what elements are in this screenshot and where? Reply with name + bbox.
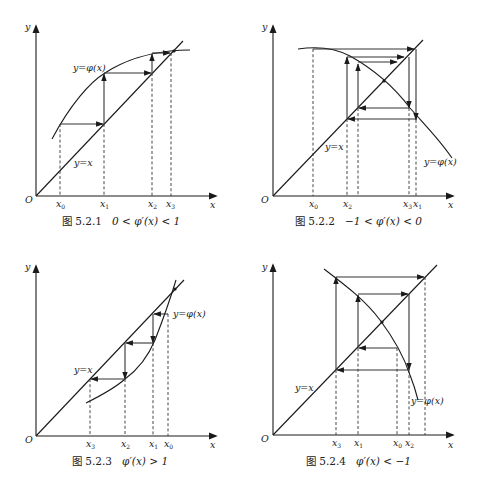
svg-text:x1: x1	[149, 438, 158, 450]
svg-text:x1: x1	[413, 198, 422, 210]
line-label: y=x	[73, 364, 93, 375]
svg-text:x3: x3	[403, 198, 412, 210]
origin-label: O	[261, 194, 269, 205]
line-label: y=x	[294, 382, 314, 393]
line-label: y=x	[324, 141, 344, 152]
svg-text:x0: x0	[393, 437, 402, 449]
curve-phi	[86, 280, 176, 403]
origin-label: O	[25, 194, 33, 205]
curve-phi	[324, 269, 418, 400]
svg-text:x3: x3	[166, 198, 175, 210]
curve-label: y=φ(x)	[423, 156, 457, 167]
x-tick-labels: x0 x2 x3 x1	[309, 198, 422, 210]
svg-text:x3: x3	[332, 437, 341, 449]
figure-5-2-1: y x O y=x y=φ(x) x0 x1 x2 x3 图 5.2.10 < …	[24, 21, 216, 227]
origin-label: O	[25, 434, 33, 445]
y-axis-label: y	[24, 21, 31, 32]
svg-text:x2: x2	[148, 198, 157, 210]
line-y-equals-x	[273, 265, 437, 435]
y-axis-label: y	[261, 261, 268, 272]
curve-phi	[298, 48, 452, 158]
svg-text:x2: x2	[121, 438, 130, 450]
svg-text:x3: x3	[86, 438, 95, 450]
x-axis-label: x	[448, 439, 454, 450]
svg-text:x2: x2	[405, 437, 414, 449]
svg-text:x2: x2	[343, 198, 352, 210]
curve-label: y=φ(x)	[72, 62, 106, 73]
line-y-equals-x	[36, 41, 183, 196]
fixed-point	[382, 79, 385, 82]
figure-caption: 图 5.2.2−1 < φ′(x) < 0	[295, 215, 422, 227]
figure-5-2-4: y x O y=x y=φ(x) x3 x1 x0 x2 图 5.2.4φ′(x…	[261, 261, 454, 467]
x-axis-label: x	[448, 199, 454, 210]
figure-5-2-2: y x O y=x y=φ(x) x0 x2 x3 x1 图 5.2.2−1 <…	[261, 21, 457, 227]
fixed-point-iteration-figures: y x O y=x y=φ(x) x0 x1 x2 x3 图 5.2.10 < …	[0, 0, 479, 488]
fixed-point	[380, 320, 383, 323]
x-tick-labels: x0 x1 x2 x3	[56, 198, 175, 210]
line-y-equals-x	[36, 280, 184, 436]
figure-caption: 图 5.2.4φ′(x) < −1	[306, 455, 411, 467]
curve-label: y=φ(x)	[172, 308, 206, 319]
svg-text:x0: x0	[56, 198, 65, 210]
figure-5-2-3: y x O y=x y=φ(x) x3 x2 x1 x0 图 5.2.3φ′(x…	[24, 261, 216, 467]
svg-text:x1: x1	[354, 437, 363, 449]
y-axis-label: y	[261, 21, 268, 32]
line-y-equals-x	[273, 40, 423, 196]
origin-label: O	[261, 433, 269, 444]
figure-caption: 图 5.2.3φ′(x) > 1	[72, 455, 168, 467]
fixed-point	[173, 287, 176, 290]
svg-text:x1: x1	[100, 198, 109, 210]
y-axis-label: y	[24, 261, 31, 272]
x-tick-labels: x3 x2 x1 x0	[86, 438, 173, 450]
svg-text:x0: x0	[309, 198, 318, 210]
curve-label: y=φ(x)	[410, 395, 444, 406]
x-tick-labels: x3 x1 x0 x2	[332, 437, 414, 449]
line-label: y=x	[73, 157, 93, 168]
x-axis-label: x	[210, 439, 216, 450]
x-axis-label: x	[210, 199, 216, 210]
figure-caption: 图 5.2.10 < φ′(x) < 1	[62, 215, 180, 227]
svg-text:x0: x0	[164, 438, 173, 450]
fixed-point	[172, 49, 175, 52]
